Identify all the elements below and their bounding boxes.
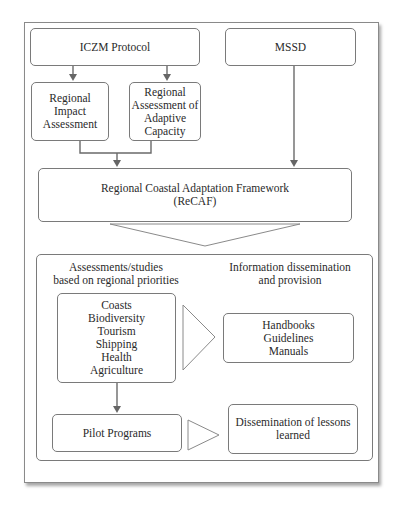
lessons-line-1: Dissemination of lessons — [236, 416, 351, 429]
topic-tourism: Tourism — [97, 325, 135, 338]
adaptive-capacity-box: Regional Assessment of Adaptive Capacity — [129, 82, 201, 141]
output-manuals: Manuals — [269, 345, 309, 358]
iczm-protocol-label: ICZM Protocol — [80, 41, 151, 54]
assessments-heading: Assessments/studies based on regional pr… — [40, 261, 192, 287]
topic-health: Health — [101, 351, 132, 364]
pilot-programs-box: Pilot Programs — [52, 414, 182, 452]
outputs-box: Handbooks Guidelines Manuals — [223, 313, 354, 363]
impact-line-2: Impact — [54, 105, 86, 118]
mssd-box: MSSD — [225, 28, 356, 66]
impact-line-3: Assessment — [43, 118, 97, 131]
iczm-protocol-box: ICZM Protocol — [30, 28, 200, 66]
regional-impact-assessment-box: Regional Impact Assessment — [31, 82, 109, 141]
lessons-line-2: learned — [276, 429, 310, 442]
topic-biodiversity: Biodiversity — [88, 312, 145, 325]
adaptive-line-1: Regional — [144, 86, 186, 99]
mssd-label: MSSD — [275, 41, 306, 54]
topic-agriculture: Agriculture — [90, 364, 143, 377]
output-handbooks: Handbooks — [262, 319, 314, 332]
pilot-programs-label: Pilot Programs — [83, 427, 152, 440]
adaptive-line-4: Capacity — [145, 125, 186, 138]
topic-shipping: Shipping — [96, 338, 138, 351]
recaf-line-1: Regional Coastal Adaptation Framework — [101, 182, 289, 195]
recaf-line-2: (ReCAF) — [174, 195, 217, 208]
topic-coasts: Coasts — [101, 299, 132, 312]
information-heading: Information dissemination and provision — [222, 261, 358, 287]
information-heading-line-1: Information dissemination — [222, 261, 358, 274]
impact-line-1: Regional — [49, 92, 91, 105]
assessments-heading-line-2: based on regional priorities — [40, 274, 192, 287]
adaptive-line-2: Assessment of — [132, 99, 199, 112]
adaptive-line-3: Adaptive — [144, 112, 186, 125]
assessments-heading-line-1: Assessments/studies — [40, 261, 192, 274]
lessons-learned-box: Dissemination of lessons learned — [228, 404, 358, 454]
topics-box: Coasts Biodiversity Tourism Shipping Hea… — [57, 293, 176, 383]
output-guidelines: Guidelines — [264, 332, 314, 345]
information-heading-line-2: and provision — [222, 274, 358, 287]
recaf-box: Regional Coastal Adaptation Framework (R… — [38, 168, 352, 222]
